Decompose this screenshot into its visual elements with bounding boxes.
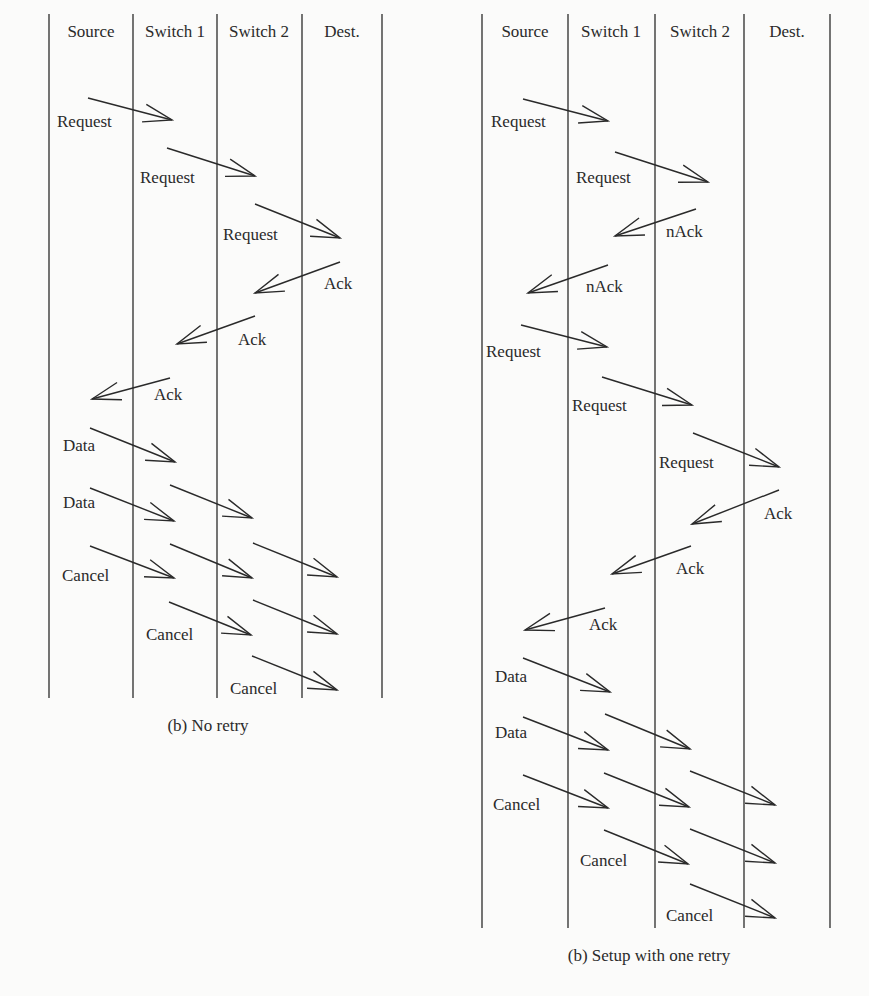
message-label: Cancel [666,906,713,925]
message-label: Request [140,168,195,187]
message-arrow: Request [223,204,340,244]
column-header: Source [67,22,114,41]
message-label: Request [491,112,546,131]
no-retry-diagram: SourceSwitch 1Switch 2Dest.RequestReques… [49,14,382,735]
message-arrow: Ack [692,490,793,524]
arrowhead-icon [525,613,555,630]
message-arrow: Ack [177,316,267,349]
arrowhead-icon [307,558,337,577]
message-label: Ack [764,504,793,523]
message-label: Request [576,168,631,187]
message-arrow [604,773,689,807]
message-arrow: Data [63,488,174,521]
message-arrow: Data [63,428,175,462]
message-label: Data [63,493,96,512]
message-label: Cancel [493,795,540,814]
arrowhead-icon [144,503,174,521]
message-label: Ack [324,274,353,293]
message-label: Data [63,436,96,455]
arrowhead-icon [310,219,340,238]
arrowhead-icon [658,845,688,864]
message-arrow [170,544,252,578]
arrowhead-icon [145,443,175,462]
message-arrow: nAck [528,265,623,296]
message-arrow [253,543,337,577]
column-header: Switch 1 [145,22,205,41]
message-arrow [170,485,252,518]
message-arrow: Request [486,325,607,361]
column-header: Switch 2 [670,22,730,41]
message-arrow: Data [495,658,610,692]
message-arrow [253,600,337,634]
message-arrow: Cancel [62,546,174,585]
message-label: Request [572,396,627,415]
message-label: Request [659,453,714,472]
sequence-diagrams-canvas: SourceSwitch 1Switch 2Dest.RequestReques… [0,0,869,996]
message-arrow: Ack [525,608,618,634]
message-label: Request [486,342,541,361]
message-arrow: Ack [612,546,705,578]
message-arrow: Cancel [493,775,608,814]
message-label: Data [495,723,528,742]
arrowhead-icon [307,615,337,634]
message-label: Request [57,112,112,131]
message-label: nAck [586,277,623,296]
message-label: Cancel [230,679,277,698]
arrowhead-icon [745,844,775,863]
message-arrow: Request [57,98,172,131]
message-arrow: Cancel [230,656,337,698]
message-arrow: Request [140,148,255,187]
message-label: Ack [589,615,618,634]
message-label: Request [223,225,278,244]
message-arrow: Request [659,433,779,472]
column-header: Dest. [769,22,804,41]
message-label: nAck [666,222,703,241]
arrowhead-icon [221,616,251,635]
message-label: Data [495,667,528,686]
message-arrow: Cancel [146,602,251,644]
message-arrow [605,714,690,749]
message-label: Cancel [62,566,109,585]
message-arrow [690,829,775,863]
column-header: Switch 2 [229,22,289,41]
arrowhead-icon [307,671,337,690]
message-label: Ack [238,330,267,349]
arrowhead-icon [222,499,252,518]
arrowhead-icon [222,559,252,578]
arrowhead-icon [659,788,689,807]
message-arrow: Request [572,377,692,415]
column-header: Dest. [324,22,359,41]
figure-caption: (b) No retry [167,716,249,735]
message-label: Ack [676,559,705,578]
message-arrow: nAck [615,209,703,241]
message-arrow: Request [576,152,708,187]
arrowhead-icon [749,449,779,467]
arrowhead-icon [660,730,690,749]
arrowhead-icon [745,786,775,805]
message-arrow: Ack [92,378,183,404]
message-arrow [690,771,775,805]
message-label: Ack [154,385,183,404]
column-header: Source [501,22,548,41]
message-arrow: Data [495,717,608,750]
message-arrow: Request [491,99,608,131]
message-arrow: Cancel [666,884,775,925]
message-label: Cancel [146,625,193,644]
one-retry-diagram: SourceSwitch 1Switch 2Dest.RequestReques… [482,14,830,965]
message-arrow: Ack [255,262,353,293]
message-arrow: Cancel [580,830,688,870]
figure-caption: (b) Setup with one retry [568,946,731,965]
message-label: Cancel [580,851,627,870]
column-header: Switch 1 [581,22,641,41]
arrowhead-icon [745,899,775,918]
